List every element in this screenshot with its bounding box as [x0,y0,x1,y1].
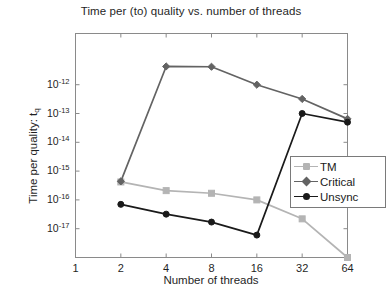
y-tick-label-2: 10-14 [36,135,70,147]
data-point-tm-2 [209,190,215,196]
data-point-tm-3 [254,197,260,203]
legend-item-critical[interactable]: Critical [291,174,385,189]
y-tick-label-5: 10-17 [36,222,70,234]
x-tick-label-2: 4 [151,262,181,274]
data-point-tm-1 [163,188,169,194]
data-point-unsync-1 [163,211,169,217]
legend-swatch-critical [294,175,318,189]
y-tick-label-1: 10-13 [36,107,70,119]
x-tick-label-0: 1 [61,262,91,274]
x-tick-label-6: 64 [333,262,363,274]
data-point-unsync-4 [299,111,305,117]
legend-item-unsync[interactable]: Unsync [291,189,385,204]
x-tick-label-4: 16 [242,262,272,274]
y-tick-label-4: 10-16 [36,193,70,205]
y-tick-label-3: 10-15 [36,164,70,176]
data-point-critical-4 [299,95,306,102]
data-point-unsync-3 [254,232,260,238]
legend-swatch-unsync [294,190,318,204]
data-point-critical-2 [208,63,215,70]
legend-item-tm[interactable]: TM [291,159,385,174]
x-axis-label: Number of threads [75,274,347,286]
data-point-critical-3 [253,81,260,88]
data-point-unsync-2 [209,219,215,225]
data-point-tm-5 [345,255,351,261]
data-point-unsync-5 [345,119,351,125]
chart-legend: TM Critical Unsync [290,156,386,208]
x-tick-label-1: 2 [106,262,136,274]
legend-label-critical: Critical [318,176,355,188]
x-tick-label-5: 32 [287,262,317,274]
y-tick-label-0: 10-12 [36,78,70,90]
x-tick-label-3: 8 [197,262,227,274]
data-point-critical-1 [163,63,170,70]
legend-label-tm: TM [318,161,337,173]
data-point-unsync-0 [118,201,124,207]
legend-swatch-tm [294,160,318,174]
legend-label-unsync: Unsync [318,191,358,203]
data-point-tm-4 [299,216,305,222]
